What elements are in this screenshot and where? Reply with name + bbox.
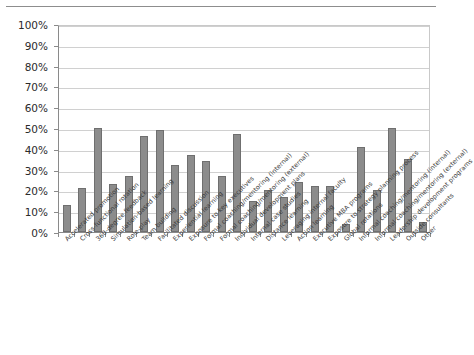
y-axis-tick-label: 70% <box>25 82 48 92</box>
y-axis-tick-label: 40% <box>25 145 48 155</box>
y-axis-tick-label: 20% <box>25 186 48 196</box>
y-axis-tick-label: 30% <box>25 166 48 176</box>
y-axis-tick-label: 10% <box>25 207 48 217</box>
y-axis-tick-label: 60% <box>25 103 48 113</box>
top-divider-rule <box>6 6 436 7</box>
y-axis-tick-label: 100% <box>18 20 48 30</box>
y-axis-tick-label: 80% <box>25 62 48 72</box>
x-axis-tick-mark <box>58 233 59 237</box>
y-axis-tick-label: 50% <box>25 124 48 134</box>
y-axis: 100%90%80%70%60%50%40%30%20%10%0% <box>0 0 56 260</box>
y-axis-tick-label: 0% <box>31 228 48 238</box>
y-axis-tick-label: 90% <box>25 41 48 51</box>
x-axis-category-labels: Accelerated promotionCross-functional ro… <box>0 238 442 355</box>
bar <box>63 205 71 232</box>
